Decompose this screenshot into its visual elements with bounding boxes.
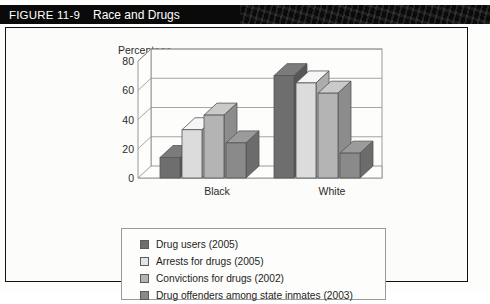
legend-item: Drug users (2005) bbox=[140, 237, 385, 253]
figure-number: FIGURE 11-9 bbox=[9, 9, 80, 21]
y-tick-label: 20 bbox=[122, 143, 134, 155]
legend-item: Arrests for drugs (2005) bbox=[140, 254, 385, 270]
x-tick-label: White bbox=[319, 185, 346, 197]
legend-item-label: Convictions for drugs (2002) bbox=[156, 273, 284, 284]
y-tick-label: 40 bbox=[122, 114, 134, 126]
chart-area: Percentage 80 60 40 20 0 Black White bbox=[106, 44, 406, 204]
legend-swatch-icon bbox=[140, 257, 149, 266]
legend-swatch-icon bbox=[140, 274, 149, 283]
chart-legend: Drug users (2005) Arrests for drugs (200… bbox=[121, 228, 386, 300]
legend-swatch-icon bbox=[140, 291, 149, 300]
bar-chart-svg bbox=[138, 61, 382, 178]
figure-banner: FIGURE 11-9 Race and Drugs bbox=[0, 5, 490, 24]
figure-title: Race and Drugs bbox=[93, 8, 180, 22]
y-tick-label: 60 bbox=[122, 84, 134, 96]
banner-texture bbox=[240, 5, 490, 24]
y-tick-label: 80 bbox=[122, 55, 134, 67]
y-axis-ticks: 80 60 40 20 0 bbox=[106, 61, 134, 178]
legend-item-label: Arrests for drugs (2005) bbox=[156, 256, 264, 267]
y-tick-label: 0 bbox=[128, 172, 134, 184]
legend-item-label: Drug users (2005) bbox=[156, 239, 238, 250]
figure-frame: Percentage 80 60 40 20 0 Black White Dru… bbox=[5, 27, 468, 282]
legend-item-label: Drug offenders among state inmates (2003… bbox=[156, 290, 353, 301]
legend-item: Drug offenders among state inmates (2003… bbox=[140, 288, 385, 304]
plot-canvas bbox=[138, 61, 382, 178]
x-tick-label: Black bbox=[204, 185, 230, 197]
legend-swatch-icon bbox=[140, 240, 149, 249]
legend-item: Convictions for drugs (2002) bbox=[140, 271, 385, 287]
